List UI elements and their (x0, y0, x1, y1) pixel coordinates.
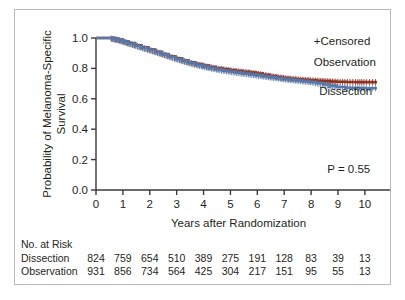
risk-cell: 856 (114, 265, 132, 277)
x-tick-label: 4 (200, 198, 207, 210)
x-tick-label: 3 (173, 198, 179, 210)
dissection-label: Dissection (319, 85, 372, 97)
x-tick-label: 2 (147, 198, 153, 210)
p-value: P = 0.55 (327, 163, 370, 175)
risk-cell: 275 (222, 252, 240, 264)
risk-cell: 191 (249, 252, 267, 264)
x-tick-label: 8 (308, 198, 314, 210)
x-tick-label: 9 (335, 198, 341, 210)
x-tick-label: 0 (93, 198, 99, 210)
y-tick-label: 0.2 (72, 154, 88, 166)
risk-cell: 55 (332, 265, 344, 277)
y-tick-label: 1.0 (72, 32, 88, 44)
censored-key: +Censored (314, 35, 371, 47)
risk-row-label: Observation (21, 265, 78, 277)
risk-cell: 734 (141, 265, 159, 277)
risk-table-header: No. at Risk (21, 238, 73, 250)
x-tick-label: 5 (227, 198, 233, 210)
risk-row-label: Dissection (21, 252, 70, 264)
y-axis-title: Survival (55, 94, 67, 135)
risk-cell: 95 (305, 265, 317, 277)
risk-cell: 654 (141, 252, 159, 264)
survival-chart: 0.00.20.40.60.81.0012345678910Years afte… (15, 10, 390, 284)
risk-cell: 425 (195, 265, 213, 277)
y-tick-label: 0.8 (72, 62, 88, 74)
risk-cell: 931 (87, 265, 105, 277)
x-tick-label: 10 (358, 198, 371, 210)
x-tick-label: 7 (281, 198, 287, 210)
risk-cell: 389 (195, 252, 213, 264)
risk-cell: 39 (332, 252, 344, 264)
y-tick-label: 0.4 (72, 123, 89, 135)
x-axis-title: Years after Randomization (171, 217, 306, 229)
risk-cell: 564 (168, 265, 186, 277)
y-axis-title: Probability of Melanoma-Specific (41, 30, 53, 198)
x-tick-label: 1 (120, 198, 126, 210)
risk-cell: 128 (275, 252, 293, 264)
figure-panel: 0.00.20.40.60.81.0012345678910Years afte… (14, 9, 391, 285)
risk-cell: 217 (249, 265, 267, 277)
risk-cell: 151 (275, 265, 293, 277)
risk-cell: 304 (222, 265, 240, 277)
observation-label: Observation (314, 56, 376, 68)
y-tick-label: 0.6 (72, 93, 88, 105)
risk-cell: 824 (87, 252, 105, 264)
risk-cell: 510 (168, 252, 186, 264)
risk-cell: 83 (305, 252, 317, 264)
x-tick-label: 6 (254, 198, 260, 210)
risk-cell: 13 (359, 252, 371, 264)
risk-cell: 13 (359, 265, 371, 277)
y-tick-label: 0.0 (72, 184, 88, 196)
risk-cell: 759 (114, 252, 132, 264)
